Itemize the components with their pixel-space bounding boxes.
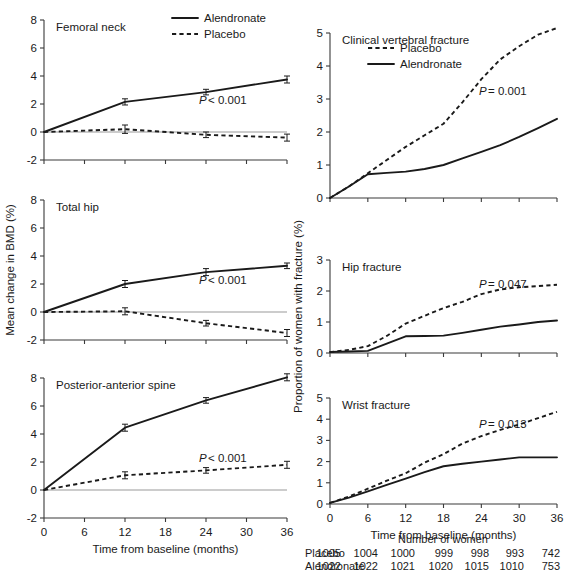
panel-pa-spine: 86420-2Posterior-anterior spineP< 0.001 [27,372,290,524]
number-of-women-cell: 1020 [429,560,453,572]
y-tick-label: 6 [31,400,37,412]
y-tick-label: 5 [317,27,323,39]
y-tick-label: -2 [27,334,37,346]
y-tick-label: 4 [31,250,38,262]
y-tick-label: 1 [317,159,323,171]
y-tick-label: 0 [31,484,37,496]
y-tick-label: 2 [317,126,323,138]
p-value-text: = 0.047 [488,278,527,290]
panel-title: Wrist fracture [342,399,410,411]
panel-total-hip: 86420-2Total hipP< 0.001 [27,194,290,346]
y-tick-label: 4 [31,428,38,440]
x-tick-label: 24 [475,512,488,524]
y-tick-label: 8 [31,372,37,384]
series-alendronate [44,266,287,312]
p-value-annotation: P< 0.001 [199,274,247,286]
y-tick-label: 0 [31,126,37,138]
legend-label-placebo: Placebo [400,42,442,54]
number-of-women-cell: 1005 [317,547,341,559]
number-of-women-table: Number of womenPlacebo100510041000999998… [305,533,560,572]
p-value-annotation: P= 0.013 [479,418,527,430]
y-tick-label: 1 [317,477,323,489]
p-value-symbol: P [199,94,207,106]
number-of-women-cell: 1015 [465,560,489,572]
y-tick-label: 2 [31,456,37,468]
figure-container: 86420-2Femoral neckP< 0.00186420-2Total … [0,0,570,582]
panel-title: Hip fracture [342,261,401,273]
y-tick-label: 3 [317,93,323,105]
y-tick-label: 3 [317,254,323,266]
panel-hip-fracture: 3210Hip fractureP= 0.047 [317,254,557,359]
y-tick-label: -2 [27,512,37,524]
panel-title: Posterior-anterior spine [56,379,176,391]
p-value-symbol: P [479,85,487,97]
p-value-symbol: P [199,452,207,464]
panel-wrist-fracture: 543210Wrist fractureP= 0.013 [317,392,557,510]
y-tick-label: 2 [31,278,37,290]
p-value-annotation: P< 0.001 [199,452,247,464]
series-alendronate [330,119,557,198]
x-tick-label: 30 [240,526,253,538]
x-tick-label: 36 [551,512,564,524]
series-alendronate [330,320,557,352]
number-of-women-heading: Number of women [398,533,488,545]
error-bar [284,134,290,141]
series-alendronate [330,457,557,503]
x-tick-label: 0 [41,526,47,538]
x-tick-label: 6 [365,512,371,524]
legend-left: AlendronatePlacebo [172,12,266,40]
y-tick-label: 1 [317,316,323,328]
number-of-women-cell: 993 [506,547,524,559]
y-tick-label: 8 [31,194,37,206]
number-of-women-cell: 1000 [391,547,415,559]
number-of-women-cell: 1022 [354,560,378,572]
number-of-women-cell: 1022 [317,560,341,572]
number-of-women-cell: 1021 [391,560,415,572]
x-tick-label: 12 [119,526,132,538]
x-tick-label: 30 [513,512,526,524]
panel-title: Femoral neck [56,21,126,33]
number-of-women-cell: 998 [471,547,489,559]
number-of-women-cell: 999 [435,547,453,559]
series-placebo [44,465,287,490]
panel-femoral-neck: 86420-2Femoral neckP< 0.001 [27,14,290,166]
legend-label-alendronate: Alendronate [400,58,462,70]
y-tick-label: 4 [317,413,324,425]
y-tick-label: -2 [27,154,37,166]
y-tick-label: 2 [31,98,37,110]
y-tick-label: 0 [317,347,323,359]
x-tick-label: 24 [200,526,213,538]
number-of-women-cell: 1004 [354,547,378,559]
x-tick-label: 0 [327,512,333,524]
error-bar [284,330,290,337]
series-alendronate [44,377,287,490]
right-y-axis-title: Proportion of women with fracture (%) [292,220,304,413]
series-placebo [330,285,557,352]
y-tick-label: 8 [31,14,37,26]
y-tick-label: 6 [31,222,37,234]
y-tick-label: 3 [317,434,323,446]
x-tick-label: 12 [399,512,412,524]
x-tick-label: 18 [159,526,172,538]
x-tick-label: 6 [81,526,87,538]
legend-label-alendronate: Alendronate [204,12,266,24]
legend-right: PlaceboAlendronate [368,42,462,70]
series-alendronate [44,80,287,133]
series-placebo [44,311,287,333]
number-of-women-cell: 753 [542,560,560,572]
series-placebo [44,129,287,137]
p-value-symbol: P [479,418,487,430]
y-tick-label: 2 [317,456,323,468]
y-tick-label: 4 [31,70,38,82]
p-value-annotation: P= 0.001 [479,85,527,97]
y-tick-label: 5 [317,392,323,404]
p-value-symbol: P [479,278,487,290]
p-value-text: < 0.001 [208,274,247,286]
series-placebo [330,28,557,198]
number-of-women-cell: 1010 [500,560,524,572]
legend-label-placebo: Placebo [204,28,246,40]
left-y-axis-title: Mean change in BMD (%) [4,204,16,336]
y-tick-label: 4 [317,60,324,72]
p-value-annotation: P= 0.047 [479,278,527,290]
p-value-text: < 0.001 [208,94,247,106]
